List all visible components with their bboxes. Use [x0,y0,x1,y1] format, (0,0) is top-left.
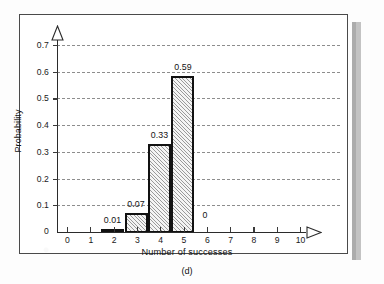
x-tick-3 [137,227,138,233]
x-tick-label-2: 2 [104,235,124,245]
y-tick-label-0.2: 0.2 [21,174,49,184]
x-tick-8 [253,227,254,233]
y-tick-label-0.3: 0.3 [21,147,49,157]
x-tick-label-0: 0 [58,235,78,245]
x-tick-label-8: 8 [244,235,264,245]
x-tick-label-6: 6 [197,235,217,245]
x-tick-label-7: 7 [221,235,241,245]
bar-label-x2: 0.01 [96,215,130,225]
x-tick-0 [67,227,68,233]
x-tick-2 [114,227,115,233]
y-tick-0.3 [53,152,58,153]
figure-canvas: 0.01 0.07 0.33 0.59 0 0.7 0.6 0.5 0.4 0.… [0,0,384,284]
gridline-0.4 [57,125,340,126]
x-tick-5 [184,227,185,233]
y-tick-0.6 [53,72,58,73]
x-tick-1 [90,227,91,233]
x-tick-7 [230,227,231,233]
x-axis-line [57,232,306,233]
y-tick-0.5 [53,98,58,99]
x-axis-title: Number of successes [57,247,317,257]
gridline-0.2 [57,179,340,180]
gridline-0.1 [57,205,340,206]
bar-label-x5: 0.59 [166,62,200,72]
y-axis-title: Probability [13,91,23,171]
x-tick-label-1: 1 [81,235,101,245]
y-tick-label-0.5: 0.5 [21,93,49,103]
y-tick-label-0.4: 0.4 [21,120,49,130]
gridline-0.3 [57,152,340,153]
figure-caption: (d) [57,266,317,276]
y-tick-0.7 [53,45,58,46]
bar-label-x6: 0 [188,210,222,220]
x-tick-6 [207,227,208,233]
x-tick-9 [277,227,278,233]
frame-drop-shadow-inner [352,22,356,260]
y-tick-label-0.6: 0.6 [21,67,49,77]
x-tick-label-10: 10 [291,235,311,245]
y-tick-label-0: 0 [21,226,49,236]
bar-label-x4: 0.33 [143,130,177,140]
x-tick-10 [300,227,301,233]
y-axis-arrow-icon [50,25,65,41]
bar-label-x3: 0.07 [119,199,153,209]
y-tick-0.4 [53,125,58,126]
bar-x4[interactable] [148,144,171,234]
x-tick-4 [160,227,161,233]
y-tick-0.1 [53,205,58,206]
gridline-0.7 [57,45,340,46]
x-tick-label-3: 3 [127,235,147,245]
x-tick-label-4: 4 [151,235,171,245]
gridline-0.5 [57,98,340,99]
y-tick-label-0.7: 0.7 [21,40,49,50]
x-tick-label-5: 5 [174,235,194,245]
y-axis-line [57,38,58,233]
y-tick-0.2 [53,179,58,180]
y-tick-label-0.1: 0.1 [21,200,49,210]
x-tick-label-9: 9 [267,235,287,245]
